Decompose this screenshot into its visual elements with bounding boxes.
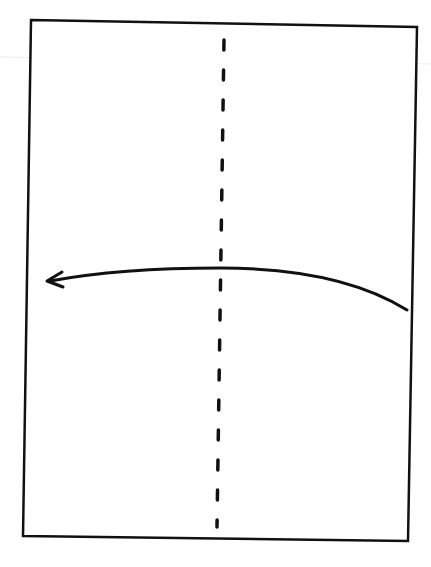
- origami-diagram: [0, 0, 431, 567]
